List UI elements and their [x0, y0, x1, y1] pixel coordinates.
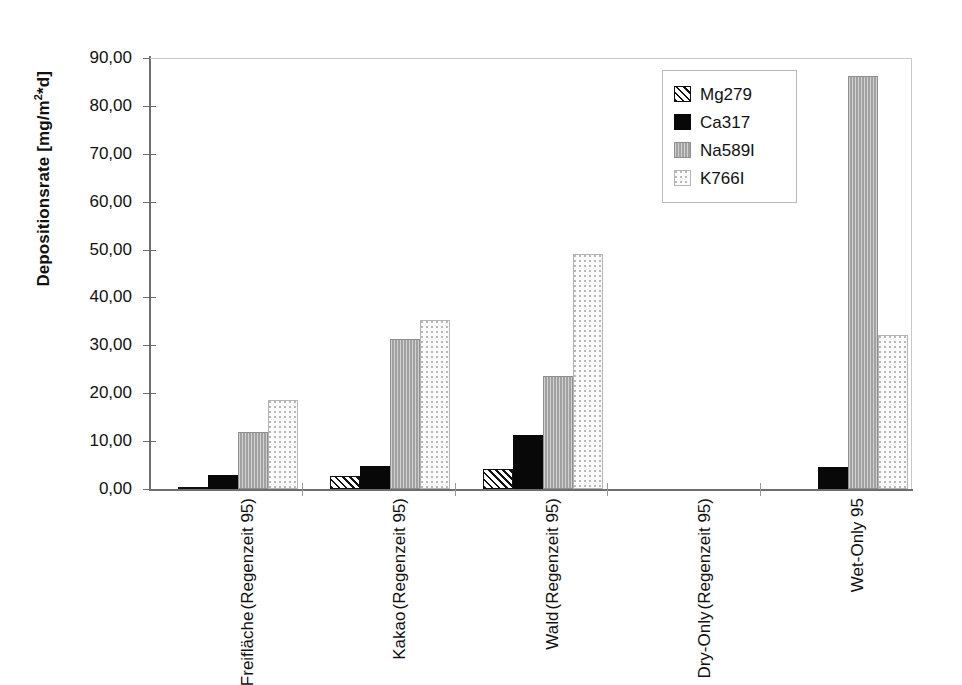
x-category-label: Dry-Only(Regenzeit 95)	[629, 497, 779, 677]
x-category-label-line: Kakao	[390, 611, 409, 661]
gray-swatch	[674, 142, 691, 158]
y-axis-title-tail: *d]	[34, 71, 53, 94]
bar-mg279[interactable]	[483, 469, 513, 489]
y-tick-label: 20,00	[32, 384, 132, 401]
bar-mg279[interactable]	[330, 476, 360, 489]
legend-item[interactable]: Na589I	[674, 136, 786, 164]
x-axis-separator	[607, 483, 608, 496]
y-tick-label: 0,00	[32, 480, 132, 497]
bar-ca317[interactable]	[360, 466, 390, 489]
y-tick-label: 30,00	[32, 336, 132, 353]
x-category-label: Wet-Only 95	[782, 497, 932, 677]
x-category-label-line: (Regenzeit 95)	[390, 497, 409, 611]
bar-k766i[interactable]	[420, 320, 450, 489]
y-tick-label: 80,00	[32, 97, 132, 114]
x-category-label-line: Dry-Only	[695, 611, 714, 680]
x-axis-separator	[302, 483, 303, 496]
plot-area	[150, 58, 912, 489]
legend-item-label: Mg279	[700, 86, 752, 103]
x-category-label: Freifläche(Regenzeit 95)	[172, 497, 322, 677]
bar-k766i[interactable]	[268, 400, 298, 489]
x-category-label: Wald(Regenzeit 95)	[477, 497, 627, 677]
bar-k766i[interactable]	[878, 335, 908, 489]
black-swatch	[674, 114, 691, 130]
chart-figure: Depositionsrate [mg/m2*d] 0,0010,0020,00…	[0, 0, 962, 685]
bar-group	[150, 58, 302, 489]
x-category-label-line: (Regenzeit 95)	[238, 497, 257, 611]
bar-group	[455, 58, 607, 489]
y-tick-label: 60,00	[32, 193, 132, 210]
bar-ca317[interactable]	[513, 435, 543, 489]
x-category-label-line: Freifläche	[238, 611, 257, 685]
x-category-label: Kakao(Regenzeit 95)	[324, 497, 474, 677]
y-tick-label: 40,00	[32, 288, 132, 305]
hatch-swatch	[674, 86, 691, 102]
x-category-label-line: (Regenzeit 95)	[542, 497, 561, 611]
x-category-label-line: (Regenzeit 95)	[695, 497, 714, 611]
bar-na589i[interactable]	[848, 76, 878, 489]
legend-item[interactable]: K766I	[674, 164, 786, 192]
chart-legend: Mg279Ca317Na589IK766I	[662, 70, 797, 203]
bar-na589i[interactable]	[543, 376, 573, 489]
bar-na589i[interactable]	[238, 432, 268, 489]
legend-item[interactable]: Mg279	[674, 80, 786, 108]
legend-item-label: Ca317	[700, 114, 750, 131]
bar-na589i[interactable]	[390, 339, 420, 489]
bar-group	[302, 58, 454, 489]
x-axis-line	[149, 489, 913, 491]
bar-ca317[interactable]	[818, 467, 848, 489]
dotted-swatch	[674, 170, 691, 186]
legend-item-label: Na589I	[700, 142, 755, 159]
y-tick-label: 50,00	[32, 241, 132, 258]
legend-item-label: K766I	[700, 170, 744, 187]
x-category-label-line: Wald	[542, 611, 561, 651]
legend-item[interactable]: Ca317	[674, 108, 786, 136]
y-tick-label: 70,00	[32, 145, 132, 162]
x-axis-separator	[455, 483, 456, 496]
y-tick-label: 10,00	[32, 432, 132, 449]
y-tick-label: 90,00	[32, 49, 132, 66]
bar-k766i[interactable]	[573, 254, 603, 489]
x-category-label-line: Wet-Only 95	[847, 497, 866, 593]
bar-ca317[interactable]	[208, 475, 238, 489]
x-axis-separator	[760, 483, 761, 496]
bar-mg279[interactable]	[178, 487, 208, 489]
